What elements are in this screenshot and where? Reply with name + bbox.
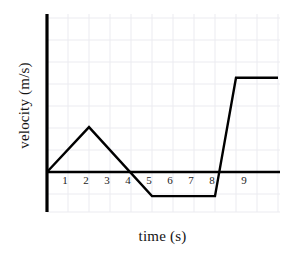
x-axis-title: time (s) — [47, 228, 278, 245]
plot-canvas — [0, 0, 284, 260]
velocity-time-graph-figure: velocity (m/s) time (s) 1 2 3 4 5 6 7 8 … — [0, 0, 284, 260]
x-tick-label-6: 6 — [162, 174, 178, 186]
y-axis-title: velocity (m/s) — [16, 41, 33, 171]
x-tick-label-5: 5 — [141, 174, 157, 186]
x-tick-label-3: 3 — [99, 174, 115, 186]
x-tick-label-1: 1 — [57, 174, 73, 186]
x-tick-label-2: 2 — [78, 174, 94, 186]
x-tick-label-7: 7 — [183, 174, 199, 186]
x-tick-label-4: 4 — [120, 174, 136, 186]
x-tick-label-8: 8 — [204, 174, 220, 186]
x-tick-label-9: 9 — [236, 174, 252, 186]
